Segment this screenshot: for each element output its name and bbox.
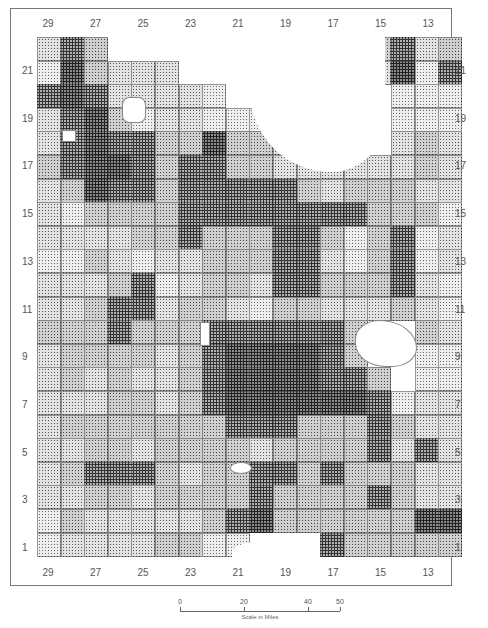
township-cell — [344, 249, 368, 273]
township-cell — [297, 509, 321, 533]
township-cell — [155, 108, 179, 132]
township-cell — [179, 367, 203, 391]
axis-label: 13 — [418, 567, 438, 578]
township-cell — [344, 226, 368, 250]
township-cell — [131, 179, 155, 203]
township-cell — [108, 438, 132, 462]
township-cell — [367, 485, 391, 509]
township-cell — [391, 108, 415, 132]
township-cell — [202, 415, 226, 439]
township-cell — [84, 367, 108, 391]
township-cell — [61, 462, 85, 486]
township-cell — [179, 533, 203, 557]
township-cell — [61, 344, 85, 368]
township-cell — [367, 179, 391, 203]
township-cell — [131, 415, 155, 439]
township-cell — [297, 226, 321, 250]
township-cell — [202, 344, 226, 368]
township-cell — [108, 179, 132, 203]
township-cell — [108, 533, 132, 557]
township-cell — [37, 273, 61, 297]
township-cell — [202, 84, 226, 108]
township-cell — [108, 131, 132, 155]
township-cell — [179, 155, 203, 179]
township-cell — [367, 249, 391, 273]
township-cell — [367, 202, 391, 226]
scale-tick — [308, 607, 309, 611]
axis-label: 29 — [38, 18, 58, 29]
township-cell — [202, 131, 226, 155]
axis-label: 5 — [455, 447, 461, 458]
axis-label: 1 — [22, 542, 28, 553]
township-cell — [84, 61, 108, 85]
township-cell — [37, 344, 61, 368]
township-cell — [391, 61, 415, 85]
township-cell — [344, 509, 368, 533]
township-cell — [84, 202, 108, 226]
township-cell — [202, 226, 226, 250]
township-cell — [226, 273, 250, 297]
township-cell — [155, 485, 179, 509]
township-cell — [391, 485, 415, 509]
township-cell — [108, 509, 132, 533]
township-cell — [108, 367, 132, 391]
township-cell — [179, 415, 203, 439]
township-cell — [108, 297, 132, 321]
township-cell — [84, 533, 108, 557]
scale-caption: Scale in Miles — [180, 614, 340, 620]
township-cell — [155, 155, 179, 179]
township-cell — [344, 273, 368, 297]
township-cell — [391, 297, 415, 321]
township-cell — [108, 273, 132, 297]
township-cell — [37, 509, 61, 533]
township-cell — [61, 37, 85, 61]
township-cell — [61, 485, 85, 509]
township-cell — [61, 61, 85, 85]
township-cell — [155, 533, 179, 557]
township-cell — [391, 249, 415, 273]
township-cell — [84, 131, 108, 155]
township-cell — [84, 320, 108, 344]
township-cell — [344, 179, 368, 203]
axis-label: 3 — [455, 494, 461, 505]
township-cell — [155, 179, 179, 203]
township-cell — [108, 202, 132, 226]
township-cell — [438, 131, 462, 155]
township-cell — [320, 226, 344, 250]
township-cell — [179, 202, 203, 226]
township-cell — [367, 438, 391, 462]
township-cell — [415, 202, 439, 226]
township-cell — [131, 438, 155, 462]
township-cell — [108, 320, 132, 344]
township-cell — [320, 415, 344, 439]
township-cell — [297, 297, 321, 321]
township-cell — [61, 320, 85, 344]
township-cell — [179, 226, 203, 250]
township-cell — [391, 415, 415, 439]
township-cell — [84, 84, 108, 108]
township-cell — [155, 462, 179, 486]
axis-label: 15 — [22, 208, 33, 219]
axis-label: 13 — [22, 256, 33, 267]
township-cell — [367, 415, 391, 439]
township-cell — [273, 344, 297, 368]
township-cell — [84, 297, 108, 321]
township-cell — [131, 249, 155, 273]
township-cell — [344, 438, 368, 462]
township-cell — [61, 367, 85, 391]
township-cell — [179, 273, 203, 297]
township-cell — [202, 485, 226, 509]
township-cell — [131, 61, 155, 85]
township-cell — [37, 131, 61, 155]
township-cell — [320, 391, 344, 415]
township-cell — [61, 509, 85, 533]
township-cell — [226, 297, 250, 321]
township-cell — [297, 273, 321, 297]
township-cell — [438, 84, 462, 108]
township-cell — [273, 438, 297, 462]
township-cell — [273, 179, 297, 203]
township-cell — [344, 202, 368, 226]
axis-label: 19 — [276, 18, 296, 29]
township-cell — [367, 533, 391, 557]
township-cell — [179, 84, 203, 108]
